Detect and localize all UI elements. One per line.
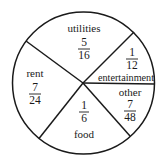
slice-denominator-other: 48 — [124, 111, 136, 123]
slice-denominator-utilities: 16 — [78, 49, 90, 61]
slice-label-utilities: utilities — [68, 22, 101, 34]
slice-denominator-rent: 24 — [29, 94, 41, 106]
slice-numerator-rent: 7 — [32, 81, 38, 93]
slice-numerator-utilities: 5 — [81, 36, 87, 48]
slice-numerator-entertainment: 1 — [129, 46, 135, 58]
slice-numerator-food: 1 — [81, 99, 87, 111]
pie-chart: utilities 5 16 1 12 entertainment other … — [0, 0, 163, 162]
slice-numerator-other: 7 — [127, 98, 133, 110]
slice-label-entertainment: entertainment — [98, 73, 154, 83]
slice-denominator-food: 6 — [81, 112, 87, 124]
slice-label-rent: rent — [26, 67, 43, 79]
slice-denominator-entertainment: 12 — [126, 59, 138, 71]
divider-entertainment-other — [83, 83, 155, 84]
slice-label-other: other — [119, 86, 142, 98]
slice-label-food: food — [74, 128, 95, 140]
